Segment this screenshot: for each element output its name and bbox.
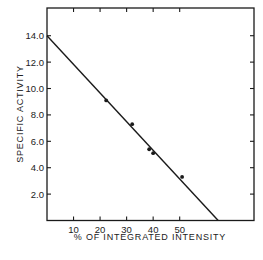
data-point [130,122,134,126]
y-axis-ticks: 2.04.06.08.010.012.014.0 [26,30,255,199]
chart: 1020304050 2.04.06.08.010.012.014.0 % OF… [0,0,263,260]
y-tick-label: 6.0 [31,136,44,147]
plot-frame [47,8,254,221]
data-point [147,147,151,151]
y-tick-label: 4.0 [31,162,44,173]
data-point [151,151,155,155]
y-tick-label: 10.0 [26,83,45,94]
y-tick-label: 12.0 [26,57,45,68]
data-point [104,98,108,102]
fit-line [47,36,218,221]
y-tick-label: 8.0 [31,109,44,120]
y-tick-label: 14.0 [26,30,45,41]
plot-border [47,8,254,221]
data-point [180,175,184,179]
y-tick-label: 2.0 [31,189,44,200]
y-axis-label: SPECIFIC ACTIVITY [15,65,25,163]
x-axis-label: % OF INTEGRATED INTENSITY [74,232,226,242]
regression-line [47,36,218,221]
